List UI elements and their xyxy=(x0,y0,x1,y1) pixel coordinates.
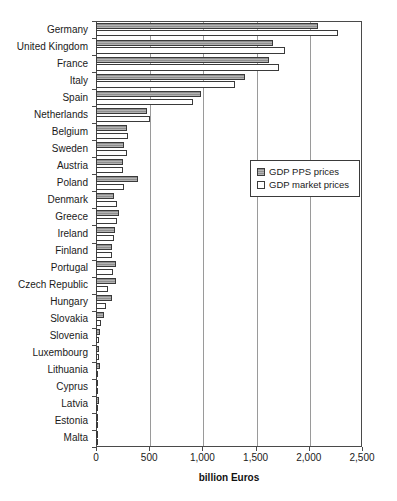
x-axis-tick-label: 1,500 xyxy=(243,452,268,464)
bar-market xyxy=(96,30,338,36)
bar-group xyxy=(96,379,362,396)
x-axis-tick-label: 0 xyxy=(93,452,99,464)
bar-pps xyxy=(96,431,98,437)
x-axis-tick xyxy=(96,447,97,451)
bar-pps xyxy=(96,397,99,403)
bar-market xyxy=(96,303,106,309)
x-axis-tick xyxy=(256,447,257,451)
bar-pps xyxy=(96,363,100,369)
bar-group xyxy=(96,72,362,89)
y-axis-label: Italy xyxy=(70,75,88,86)
y-axis-label: France xyxy=(57,58,88,69)
bar-pps xyxy=(96,278,116,284)
y-axis-label: Poland xyxy=(57,177,88,188)
x-axis-tick xyxy=(309,447,310,451)
bar-market xyxy=(96,133,128,139)
x-axis-tick-label: 500 xyxy=(141,452,158,464)
bar-market xyxy=(96,252,112,258)
bar-pps xyxy=(96,346,99,352)
bar-group xyxy=(96,106,362,123)
bar-pps xyxy=(96,57,269,63)
bar-group xyxy=(96,328,362,345)
bar-market xyxy=(96,354,99,360)
y-axis-label: Austria xyxy=(57,160,88,171)
x-axis-tick-label: 1,000 xyxy=(190,452,215,464)
y-axis-label: Portugal xyxy=(51,262,88,273)
x-axis-tick xyxy=(362,447,363,451)
bar-group xyxy=(96,260,362,277)
bar-market xyxy=(96,64,279,70)
bar-group xyxy=(96,294,362,311)
bar-group xyxy=(96,208,362,225)
y-axis-label: Luxembourg xyxy=(32,347,88,358)
bar-pps xyxy=(96,261,116,267)
bar-pps xyxy=(96,295,112,301)
chart-legend: GDP PPS prices GDP market prices xyxy=(250,160,360,197)
bar-group xyxy=(96,21,362,38)
bar-market xyxy=(96,201,117,207)
y-axis-label: Czech Republic xyxy=(18,279,88,290)
y-axis-label: Spain xyxy=(62,92,88,103)
bar-group xyxy=(96,277,362,294)
bar-group xyxy=(96,311,362,328)
bar-pps xyxy=(96,108,147,114)
bar-group xyxy=(96,38,362,55)
bar-market xyxy=(96,184,124,190)
x-axis-tick-label: 2,500 xyxy=(349,452,374,464)
y-axis-label: Malta xyxy=(64,432,88,443)
y-axis-label: Denmark xyxy=(47,194,88,205)
bar-group xyxy=(96,396,362,413)
bar-group xyxy=(96,89,362,106)
y-axis-category-labels: GermanyUnited KingdomFranceItalySpainNet… xyxy=(0,21,96,447)
y-axis-label: Cyprus xyxy=(56,381,88,392)
bar-group xyxy=(96,362,362,379)
y-axis-label: Lithuania xyxy=(47,364,88,375)
bar-pps xyxy=(96,142,124,148)
bar-pps xyxy=(96,40,273,46)
y-axis-label: Latvia xyxy=(61,398,88,409)
bar-market xyxy=(96,81,235,87)
y-axis-label: Germany xyxy=(47,24,88,35)
bar-market xyxy=(96,371,98,377)
bar-market xyxy=(96,388,98,394)
bar-pps xyxy=(96,329,100,335)
bar-market xyxy=(96,167,123,173)
bar-market xyxy=(96,47,285,53)
y-axis-label: Netherlands xyxy=(34,109,88,120)
legend-item-pps: GDP PPS prices xyxy=(257,165,354,178)
bar-group xyxy=(96,345,362,362)
y-axis-label: United Kingdom xyxy=(17,41,88,52)
bar-pps xyxy=(96,244,112,250)
x-axis-tick xyxy=(149,447,150,451)
bar-market xyxy=(96,320,101,326)
bar-group xyxy=(96,413,362,430)
bar-pps xyxy=(96,176,138,182)
bar-pps xyxy=(96,74,245,80)
bar-pps xyxy=(96,193,114,199)
bar-group xyxy=(96,140,362,157)
bar-market xyxy=(96,99,193,105)
y-axis-label: Slovakia xyxy=(50,313,88,324)
y-axis-label: Sweden xyxy=(52,143,88,154)
bar-pps xyxy=(96,23,318,29)
gdp-bar-chart: GermanyUnited KingdomFranceItalySpainNet… xyxy=(0,0,397,501)
legend-label-pps: GDP PPS prices xyxy=(269,166,339,177)
bar-market xyxy=(96,337,99,343)
bar-pps xyxy=(96,210,119,216)
bars-layer xyxy=(96,21,362,447)
bar-pps xyxy=(96,380,98,386)
bar-group xyxy=(96,123,362,140)
y-axis-label: Estonia xyxy=(55,415,88,426)
bar-market xyxy=(96,116,150,122)
bar-group xyxy=(96,55,362,72)
y-axis-label: Hungary xyxy=(50,296,88,307)
y-axis-label: Belgium xyxy=(52,126,88,137)
bar-group xyxy=(96,225,362,242)
bar-group xyxy=(96,430,362,447)
x-axis-tick-label: 2,000 xyxy=(296,452,321,464)
bar-market xyxy=(96,150,127,156)
bar-market xyxy=(96,286,108,292)
bar-market xyxy=(96,218,117,224)
bar-market xyxy=(96,405,98,411)
x-axis-tick xyxy=(202,447,203,451)
